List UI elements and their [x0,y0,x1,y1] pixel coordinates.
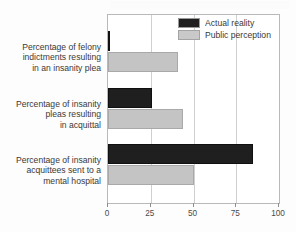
bar-public-0[interactable] [108,52,178,72]
plot-area [107,14,280,204]
category-label-2-line-2: mental hospital [0,176,101,186]
category-label-2: Percentage of insanity acquittees sent t… [0,155,101,186]
scan-artifact [110,1,290,9]
bars-layer [108,15,279,203]
x-tick-mark-25 [150,203,151,207]
category-label-0: Percentage of felony indictments resulti… [0,42,101,73]
legend-swatch-public-perception [178,30,200,40]
x-tick-mark-75 [235,203,236,207]
bar-actual-0[interactable] [108,31,110,51]
bar-public-2[interactable] [108,165,194,185]
bar-group-1 [108,88,279,132]
legend-swatch-actual-reality [178,18,200,28]
category-label-0-line-1: indictments resulting [0,52,101,62]
category-label-1-line-1: pleas resulting [0,109,101,119]
x-tick-label-0: 0 [105,209,110,218]
x-axis: 0255075100 [107,203,278,225]
bar-group-2 [108,144,279,188]
x-tick-label-50: 50 [188,209,197,218]
x-tick-mark-100 [278,203,279,207]
category-label-2-line-1: acquittees sent to a [0,165,101,175]
category-label-1: Percentage of insanity pleas resulting i… [0,99,101,130]
x-tick-mark-50 [193,203,194,207]
x-tick-label-75: 75 [231,209,240,218]
x-tick-label-25: 25 [145,209,154,218]
legend-label-actual-reality: Actual reality [205,18,254,28]
category-axis-labels: Percentage of felony indictments resulti… [0,14,104,202]
legend: Actual reality Public perception [178,18,271,40]
bar-actual-2[interactable] [108,144,253,164]
category-label-1-line-2: in acquittal [0,120,101,130]
bar-actual-1[interactable] [108,88,152,108]
legend-item-actual-reality[interactable]: Actual reality [178,18,271,28]
x-tick-label-100: 100 [271,209,285,218]
bar-chart: Percentage of felony indictments resulti… [0,0,296,232]
x-tick-mark-0 [107,203,108,207]
category-label-1-line-0: Percentage of insanity [0,99,101,109]
bar-public-1[interactable] [108,109,183,129]
category-label-0-line-0: Percentage of felony [0,42,101,52]
legend-label-public-perception: Public perception [205,30,271,40]
legend-item-public-perception[interactable]: Public perception [178,30,271,40]
category-label-0-line-2: in an insanity plea [0,63,101,73]
category-label-2-line-0: Percentage of insanity [0,155,101,165]
